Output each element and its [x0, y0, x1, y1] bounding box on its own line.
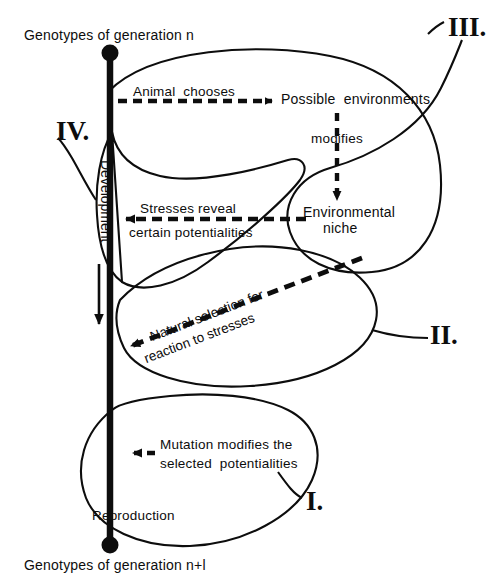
generation-n-label: Genotypes of generation n: [24, 28, 194, 44]
genotype-axis-bar: [102, 45, 119, 554]
mutation-modifies-label-line2: selected potentialities: [160, 456, 298, 471]
loop-ii-label: II.: [430, 320, 458, 351]
mutation-modifies-label-line1: Mutation modifies the: [160, 437, 293, 452]
evolution-feedback-diagram: Genotypes of generation n Genotypes of g…: [0, 0, 496, 588]
possible-environments-label: Possible environments: [281, 92, 430, 108]
stresses-reveal-label-line1: Stresses reveal: [140, 201, 236, 216]
animal-chooses-label: Animal chooses: [133, 84, 235, 99]
loop-ii-curve: [116, 247, 428, 387]
generation-n-node: [102, 45, 119, 62]
reproduction-label: Reproduction: [92, 508, 175, 523]
generation-n1-node: [102, 537, 119, 554]
loop-i-label: I.: [306, 486, 323, 517]
modifies-label: modifies: [311, 131, 363, 146]
generation-n1-label: Genotypes of generation n+l: [24, 558, 206, 574]
loop-iii-label: III.: [448, 12, 486, 43]
development-axis-label: Development: [98, 160, 114, 243]
stresses-reveal-label-line2: certain potentialities: [129, 225, 253, 240]
loop-iii-leader: [428, 22, 444, 34]
loop-iv-label: IV.: [56, 116, 89, 147]
environmental-niche-label-line1: Environmental: [303, 205, 395, 221]
environmental-niche-label-line2: niche: [323, 221, 357, 237]
